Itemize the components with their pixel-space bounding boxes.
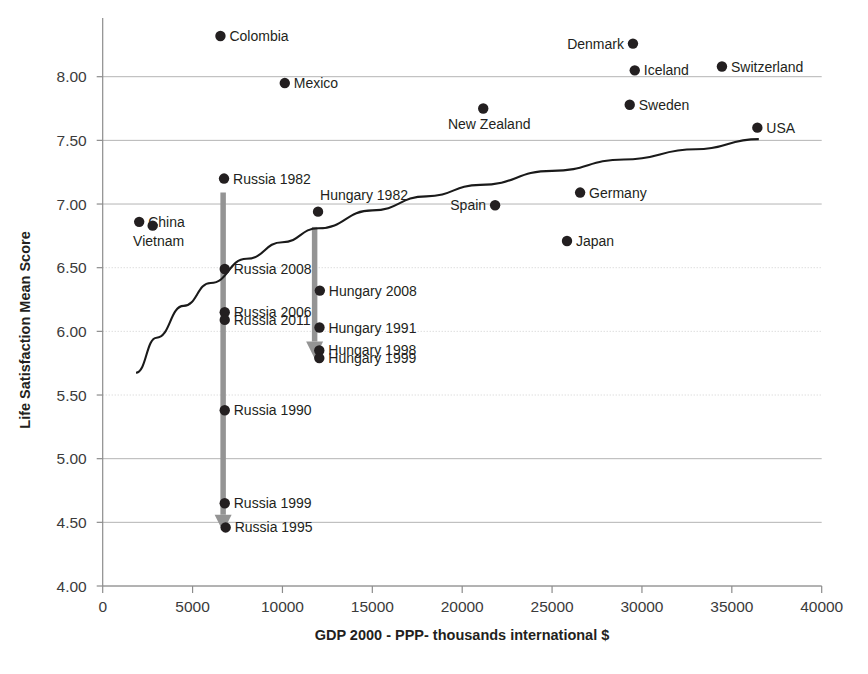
data-point-label: Russia 1999 xyxy=(234,495,312,511)
x-axis-title: GDP 2000 - PPP- thousands international … xyxy=(315,627,610,643)
data-point-label: Denmark xyxy=(567,36,625,52)
data-point-marker xyxy=(219,173,229,183)
data-point-label: Russia 1990 xyxy=(234,402,312,418)
x-tick-label: 5000 xyxy=(175,598,210,615)
data-point-marker xyxy=(220,498,230,508)
data-point-marker xyxy=(134,217,144,227)
x-tick-label: 25000 xyxy=(531,598,574,615)
x-tick-label: 35000 xyxy=(710,598,753,615)
x-tick-label: 0 xyxy=(98,598,107,615)
data-point-label: Hungary 2008 xyxy=(329,283,417,299)
data-point-label: China xyxy=(148,214,185,230)
x-tick-label: 15000 xyxy=(351,598,394,615)
data-point-label: Hungary 1991 xyxy=(328,320,416,336)
y-tick-label: 7.50 xyxy=(57,132,88,149)
data-point-label: Hungary 1982 xyxy=(320,187,408,203)
y-tick-label: 7.00 xyxy=(57,196,88,213)
y-tick-label: 8.00 xyxy=(57,68,88,85)
data-point-marker xyxy=(628,38,638,48)
data-point-label: New Zealand xyxy=(448,116,531,132)
data-point-marker xyxy=(220,405,230,415)
data-point-marker xyxy=(717,61,727,71)
data-point-marker xyxy=(625,100,635,110)
x-tick-label: 40000 xyxy=(800,598,843,615)
y-tick-label: 4.50 xyxy=(57,514,88,531)
plot-background xyxy=(0,0,868,674)
y-tick-label: 4.00 xyxy=(57,578,88,595)
y-tick-label: 6.00 xyxy=(57,323,88,340)
data-point-label: Russia 2008 xyxy=(234,261,312,277)
data-point-marker xyxy=(280,78,290,88)
data-point-marker xyxy=(478,103,488,113)
data-point-label: Russia 1995 xyxy=(235,519,313,535)
data-point-marker xyxy=(314,353,324,363)
data-point-label: Iceland xyxy=(644,62,689,78)
scatter-plot-canvas: 4.004.505.005.506.006.507.007.508.00 050… xyxy=(0,0,868,674)
data-point-marker xyxy=(490,200,500,210)
data-point-label: Russia 2011 xyxy=(234,312,311,328)
y-tick-label: 5.00 xyxy=(57,450,88,467)
data-point-marker xyxy=(314,322,324,332)
data-point-label: Russia 1982 xyxy=(233,171,311,187)
data-point-label: Switzerland xyxy=(731,59,803,75)
x-tick-label: 10000 xyxy=(261,598,304,615)
data-point-label: Japan xyxy=(576,233,614,249)
y-axis-title: Life Satisfaction Mean Score xyxy=(17,231,33,428)
y-tick-label: 5.50 xyxy=(57,387,88,404)
data-point-label: Spain xyxy=(450,197,486,213)
data-point-marker xyxy=(220,522,230,532)
y-tick-label: 6.50 xyxy=(57,259,88,276)
data-point-label: Germany xyxy=(589,185,647,201)
data-point-label: Hungary 1999 xyxy=(328,350,416,366)
chart-figure: 4.004.505.005.506.006.507.007.508.00 050… xyxy=(0,0,868,674)
data-point-marker xyxy=(220,264,230,274)
data-point-marker xyxy=(215,31,225,41)
data-point-marker xyxy=(315,285,325,295)
data-point-marker xyxy=(630,65,640,75)
x-tick-label: 30000 xyxy=(620,598,663,615)
data-point-label: USA xyxy=(766,120,795,136)
data-point-label: Mexico xyxy=(294,75,339,91)
data-point-label: Vietnam xyxy=(133,233,184,249)
data-point-marker xyxy=(562,236,572,246)
x-tick-label: 20000 xyxy=(441,598,484,615)
data-point-marker xyxy=(313,206,323,216)
data-point-marker xyxy=(575,187,585,197)
data-point-marker xyxy=(752,122,762,132)
data-point-label: Sweden xyxy=(639,97,690,113)
data-point-marker xyxy=(220,315,230,325)
data-point-label: Colombia xyxy=(229,28,288,44)
